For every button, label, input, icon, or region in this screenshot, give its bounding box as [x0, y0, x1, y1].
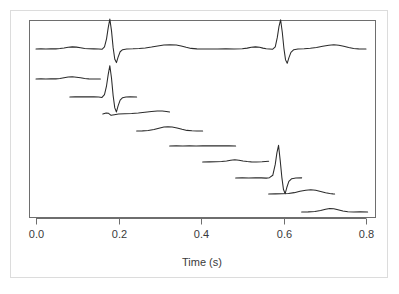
ecg-trace-beat-segment-1 — [36, 77, 100, 79]
ecg-plot-canvas: 0.00.20.40.60.8 Time (s) — [0, 0, 399, 294]
ecg-trace-beat-segment-7 — [236, 145, 302, 193]
ecg-figure: 0.00.20.40.60.8 Time (s) — [0, 0, 399, 294]
ecg-trace-beat-segment-6 — [203, 160, 269, 162]
ecg-traces-group — [36, 19, 368, 212]
ecg-trace-beat-segment-8 — [269, 190, 335, 194]
x-tick-label-0.8: 0.8 — [359, 228, 374, 240]
plot-frame — [30, 21, 376, 218]
x-axis-title: Time (s) — [182, 256, 222, 268]
x-tick-label-0.2: 0.2 — [112, 228, 127, 240]
ecg-trace-beat-segment-9 — [302, 208, 368, 212]
x-axis-tick-labels-group: 0.00.20.40.60.8 — [29, 228, 374, 240]
ecg-trace-beat-segment-3 — [103, 111, 170, 115]
ecg-trace-full-ecg-strip — [36, 19, 366, 63]
x-tick-label-0.0: 0.0 — [29, 228, 44, 240]
x-axis-ticks-group — [36, 219, 367, 225]
ecg-trace-beat-segment-4 — [137, 127, 203, 131]
x-tick-label-0.6: 0.6 — [277, 228, 292, 240]
ecg-trace-beat-segment-2 — [70, 66, 137, 112]
x-tick-label-0.4: 0.4 — [194, 228, 209, 240]
